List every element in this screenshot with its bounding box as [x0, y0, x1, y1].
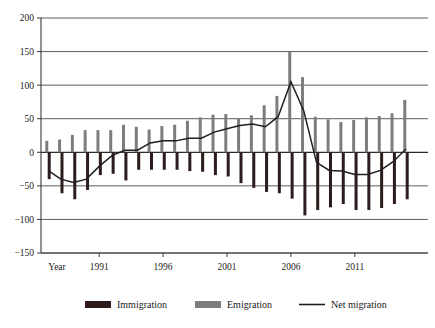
- bar-emigration-1998: [186, 121, 189, 153]
- bar-immigration-2000: [214, 152, 217, 175]
- x-tick-label-2001: 2001: [218, 262, 237, 272]
- y-tick-label-200: 200: [20, 13, 35, 23]
- legend-label-emigration: Emigration: [227, 299, 272, 310]
- bar-emigration-2014: [391, 113, 394, 152]
- bar-immigration-2009: [329, 152, 332, 207]
- y-tick-label-0: 0: [29, 148, 34, 158]
- bar-immigration-1990: [86, 152, 89, 190]
- x-tick-label-1996: 1996: [154, 262, 173, 272]
- bar-emigration-1991: [96, 130, 99, 152]
- bar-immigration-2013: [380, 152, 383, 208]
- y-tick-label-100: 100: [20, 81, 35, 91]
- bar-emigration-2001: [224, 114, 227, 152]
- legend-label-immigration: Immigration: [117, 299, 167, 310]
- bar-emigration-1988: [58, 140, 61, 153]
- bar-emigration-2012: [365, 117, 368, 152]
- bar-emigration-2009: [327, 119, 330, 152]
- bar-emigration-2004: [263, 105, 266, 152]
- x-axis-origin-label: Year: [48, 262, 66, 272]
- bar-emigration-2011: [352, 120, 355, 152]
- bar-immigration-1998: [188, 152, 191, 171]
- y-tick-label--150: −150: [14, 248, 34, 258]
- bar-immigration-1999: [201, 152, 204, 171]
- legend-group: ImmigrationEmigrationNet migration: [85, 299, 387, 310]
- bar-immigration-1996: [163, 152, 166, 169]
- bar-emigration-1990: [84, 130, 87, 152]
- bar-emigration-2008: [314, 117, 317, 153]
- bar-immigration-2006: [291, 152, 294, 198]
- legend-label-net-migration: Net migration: [331, 299, 387, 310]
- bar-immigration-2015: [406, 152, 409, 199]
- x-tick-label-2006: 2006: [281, 262, 300, 272]
- bar-emigration-1987: [45, 141, 48, 152]
- bar-immigration-1997: [176, 152, 179, 169]
- bar-emigration-2010: [339, 122, 342, 152]
- bar-immigration-1995: [150, 152, 153, 169]
- bar-immigration-1994: [137, 152, 140, 169]
- axes-group: [37, 18, 428, 257]
- bar-emigration-1994: [135, 127, 138, 153]
- bar-immigration-2012: [367, 152, 370, 210]
- bar-immigration-2007: [303, 152, 306, 215]
- y-tick-label--50: −50: [19, 181, 34, 191]
- legend-swatch-immigration: [85, 301, 111, 308]
- bar-emigration-2013: [378, 116, 381, 152]
- bar-emigration-1995: [148, 129, 151, 152]
- bar-emigration-1993: [122, 125, 125, 153]
- bar-immigration-2005: [278, 152, 281, 193]
- y-tick-label-50: 50: [25, 114, 35, 124]
- bar-immigration-1987: [48, 152, 51, 179]
- bar-immigration-1988: [60, 152, 63, 193]
- legend-swatch-emigration: [195, 301, 221, 308]
- x-tick-label-2011: 2011: [346, 262, 365, 272]
- y-tick-labels-group: 200150100500−50−100−150: [14, 13, 34, 258]
- bar-emigration-2015: [403, 100, 406, 152]
- y-tick-label--100: −100: [14, 215, 34, 225]
- bar-immigration-2002: [239, 152, 242, 183]
- bar-emigration-2007: [301, 77, 304, 152]
- bar-emigration-1996: [160, 126, 163, 152]
- bar-emigration-2005: [275, 96, 278, 152]
- bar-immigration-2010: [342, 152, 345, 204]
- bar-immigration-2001: [227, 152, 230, 176]
- x-tick-labels-group: 19911996200120062011Year: [48, 262, 364, 272]
- y-tick-label-150: 150: [20, 47, 35, 57]
- bar-immigration-2011: [355, 152, 358, 210]
- bar-emigration-1999: [199, 117, 202, 152]
- bar-emigration-1997: [173, 125, 176, 153]
- bar-emigration-2003: [250, 115, 253, 152]
- migration-chart: 200150100500−50−100−150 1991199620012006…: [0, 0, 435, 328]
- bar-immigration-2004: [265, 152, 268, 192]
- bar-immigration-2003: [252, 152, 255, 188]
- bar-emigration-1989: [71, 135, 74, 152]
- bar-emigration-2006: [288, 52, 291, 153]
- chart-canvas: 200150100500−50−100−150 1991199620012006…: [0, 0, 435, 328]
- bar-emigration-2002: [237, 118, 240, 152]
- bar-immigration-1993: [124, 152, 127, 180]
- bar-emigration-1992: [109, 130, 112, 152]
- bar-immigration-1989: [73, 152, 76, 199]
- x-tick-label-1991: 1991: [90, 262, 109, 272]
- bars-group: [45, 52, 408, 216]
